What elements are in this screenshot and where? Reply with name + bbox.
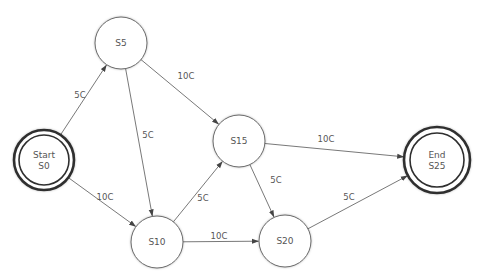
edge-labels-layer: 5C10C5C10C5C10C10C5C5C bbox=[74, 71, 354, 241]
transition-s5-to-s10 bbox=[126, 69, 153, 216]
state-label: S15 bbox=[230, 136, 247, 146]
state-diagram: StartS0S5S10S15S20EndS25 5C10C5C10C5C10C… bbox=[0, 0, 484, 279]
transition-s0-to-s5 bbox=[61, 65, 107, 135]
transition-s15-to-s20 bbox=[250, 165, 274, 217]
state-label: S25 bbox=[428, 161, 445, 171]
state-label: S5 bbox=[115, 38, 126, 48]
state-node-s5: S5 bbox=[95, 17, 147, 69]
nodes-layer: StartS0S5S10S15S20EndS25 bbox=[14, 17, 470, 268]
transition-s10-to-s15 bbox=[173, 162, 222, 222]
state-label: Start bbox=[33, 150, 55, 160]
state-label: S20 bbox=[276, 236, 293, 246]
transition-label: 5C bbox=[142, 130, 153, 140]
transition-s20-to-s25 bbox=[308, 176, 408, 229]
state-node-s10: S10 bbox=[131, 216, 183, 268]
state-node-s15: S15 bbox=[213, 115, 265, 167]
transition-label: 10C bbox=[211, 231, 228, 241]
state-node-s0: StartS0 bbox=[14, 130, 74, 190]
transition-label: 10C bbox=[318, 134, 335, 144]
transition-label: 5C bbox=[197, 193, 208, 203]
transition-label: 5C bbox=[74, 90, 85, 100]
state-node-s20: S20 bbox=[259, 215, 311, 267]
state-label: End bbox=[428, 150, 445, 160]
transition-label: 5C bbox=[270, 175, 281, 185]
transition-s10-to-s20 bbox=[183, 241, 259, 242]
state-node-s25: EndS25 bbox=[404, 127, 470, 193]
transition-label: 10C bbox=[97, 192, 114, 202]
state-label: S10 bbox=[148, 237, 165, 247]
transition-s15-to-s25 bbox=[265, 144, 404, 157]
transition-label: 10C bbox=[178, 71, 195, 81]
transition-s0-to-s10 bbox=[68, 178, 135, 227]
transition-label: 5C bbox=[343, 192, 354, 202]
state-label: S0 bbox=[38, 161, 50, 171]
transition-s5-to-s15 bbox=[141, 60, 219, 125]
